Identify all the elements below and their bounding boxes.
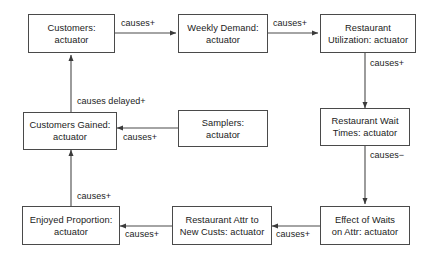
node-label-customers: Customers: actuator [47,22,95,46]
node-label-customers-gained: Customers Gained: actuator [30,119,111,143]
diagram-canvas: Customers: actuator Weekly Demand: actua… [0,0,436,263]
node-label-weekly-demand: Weekly Demand: actuator [187,22,258,46]
node-effect-of-waits[interactable]: Effect of Waits on Attr: actuator [320,206,410,245]
edge-label-restaurant-attr-to-enjoyed-proportion: causes+ [124,229,160,239]
edge-label-wait-times-to-effect-of-waits: causes− [369,150,405,160]
edge-label-enjoyed-proportion-to-customers-gained: causes+ [76,191,112,201]
edge-label-samplers-to-customers-gained: causes+ [122,132,158,142]
edge-label-restaurant-utilization-to-wait-times: causes+ [369,58,405,68]
node-customers[interactable]: Customers: actuator [28,14,115,53]
edge-label-weekly-demand-to-restaurant-utilization: causes+ [272,18,308,28]
edge-label-customers-gained-to-customers: causes delayed+ [76,96,147,106]
node-label-restaurant-attr: Restaurant Attr to New Custs: actuator [180,214,265,238]
node-customers-gained[interactable]: Customers Gained: actuator [23,112,117,150]
node-restaurant-wait-times[interactable]: Restaurant Wait Times: actuator [320,108,410,146]
node-restaurant-utilization[interactable]: Restaurant Utilization: actuator [320,14,416,53]
node-label-effect-of-waits: Effect of Waits on Attr: actuator [332,214,398,238]
node-label-enjoyed-proportion: Enjoyed Proportion: actuator [30,214,113,238]
node-label-samplers: Samplers: actuator [202,117,244,141]
node-weekly-demand[interactable]: Weekly Demand: actuator [178,14,268,53]
node-restaurant-attr[interactable]: Restaurant Attr to New Custs: actuator [172,206,272,245]
node-label-restaurant-utilization: Restaurant Utilization: actuator [328,22,408,46]
edge-label-effect-of-waits-to-restaurant-attr: causes+ [275,229,311,239]
node-enjoyed-proportion[interactable]: Enjoyed Proportion: actuator [22,206,120,245]
node-samplers[interactable]: Samplers: actuator [178,110,268,147]
node-label-restaurant-wait-times: Restaurant Wait Times: actuator [331,115,398,139]
edge-label-customers-to-weekly-demand: causes+ [120,18,156,28]
